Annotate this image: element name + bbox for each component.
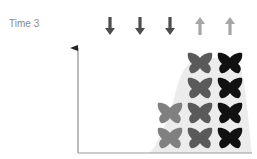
arrow-down-icon — [105, 17, 115, 35]
arrow-down-icon — [165, 17, 175, 35]
diagram — [0, 0, 257, 159]
arrow-down-icon — [135, 17, 145, 35]
arrow-up-icon — [195, 17, 205, 35]
selection-arrows — [105, 17, 235, 35]
arrow-up-icon — [225, 17, 235, 35]
